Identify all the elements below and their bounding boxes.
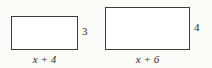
left-rectangle-shape — [11, 16, 78, 50]
left-rectangle-width-label: x + 4 — [11, 54, 78, 65]
geometry-figure: 3 x + 4 4 x + 6 — [0, 0, 212, 68]
left-rectangle-group: 3 x + 4 — [11, 16, 78, 50]
right-rectangle-width-label: x + 6 — [105, 54, 190, 65]
left-rectangle-height-label: 3 — [82, 26, 88, 37]
right-rectangle-shape — [105, 7, 190, 50]
right-rectangle-height-label: 4 — [194, 22, 200, 33]
right-rectangle-group: 4 x + 6 — [105, 7, 190, 50]
